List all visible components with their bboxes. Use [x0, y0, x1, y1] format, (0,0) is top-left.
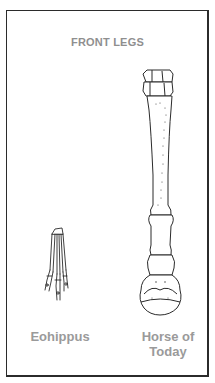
horse-carpal-bones	[143, 70, 173, 96]
eohippus-toes	[45, 270, 68, 300]
modern-horse-label-line2: Today	[128, 344, 208, 359]
eohippus-carpal	[52, 228, 63, 234]
eohippus-metacarpals	[50, 234, 66, 274]
illustration	[0, 0, 215, 383]
eohippus-label: Eohippus	[20, 329, 100, 344]
horse-long-pastern	[149, 215, 174, 255]
modern-horse-label-line1: Horse of	[128, 329, 208, 344]
horse-cannon-bone	[147, 96, 172, 215]
modern-horse-label: Horse of Today	[128, 329, 208, 359]
horse-leg-bones	[140, 70, 181, 315]
eohippus-leg-bones	[45, 228, 68, 300]
horse-coffin-bone	[140, 275, 181, 315]
horse-short-pastern	[147, 255, 174, 275]
